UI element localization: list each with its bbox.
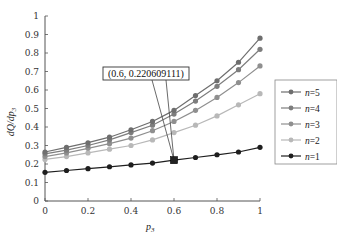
x-tick-label: 0.6	[167, 206, 182, 216]
legend-marker	[289, 90, 294, 95]
data-point	[107, 147, 112, 152]
data-point	[214, 84, 219, 89]
data-point	[193, 155, 198, 160]
y-tick-label: 0.9	[25, 30, 40, 40]
y-tick-label: 0.1	[25, 178, 39, 188]
data-point	[236, 102, 241, 107]
data-point	[193, 123, 198, 128]
data-point	[171, 130, 176, 135]
data-point	[128, 127, 133, 132]
y-tick-label: 0.6	[25, 85, 40, 95]
annotation-label: (0.6, 0.220609111)	[108, 68, 184, 80]
data-point	[85, 150, 90, 155]
series-n1	[42, 145, 262, 175]
data-point	[257, 47, 262, 52]
data-point	[150, 119, 155, 124]
x-tick-label: 0.2	[81, 206, 95, 216]
y-axis-title: dQ/dp3	[5, 107, 18, 136]
data-point	[107, 164, 112, 169]
legend-label: n=4	[305, 104, 320, 114]
x-axis-title: p3	[145, 221, 155, 234]
annotation-square-marker	[171, 157, 178, 164]
series-group	[42, 36, 262, 175]
data-point	[236, 80, 241, 85]
y-tick-label: 1	[33, 11, 39, 21]
y-tick-label: 0.3	[25, 141, 40, 151]
legend-marker	[289, 122, 294, 127]
data-point	[214, 152, 219, 157]
data-point	[42, 149, 47, 154]
y-tick-label: 0.7	[25, 67, 40, 77]
data-point	[171, 108, 176, 113]
data-point	[214, 78, 219, 83]
data-point	[236, 67, 241, 72]
line-chart: 00.20.40.60.8100.10.20.30.40.50.60.70.80…	[0, 0, 337, 242]
legend-marker	[289, 154, 294, 159]
data-point	[236, 149, 241, 154]
series-line	[45, 38, 260, 152]
axes: 00.20.40.60.8100.10.20.30.40.50.60.70.80…	[25, 11, 263, 216]
data-point	[128, 143, 133, 148]
data-point	[193, 99, 198, 104]
legend-marker	[289, 138, 294, 143]
data-point	[257, 91, 262, 96]
y-tick-label: 0.8	[25, 48, 40, 58]
legend-marker	[289, 106, 294, 111]
y-tick-label: 0.4	[25, 122, 40, 132]
data-point	[107, 135, 112, 140]
legend: n=5n=4n=3n=2n=1	[275, 80, 337, 164]
data-point	[128, 136, 133, 141]
x-tick-label: 1	[257, 206, 263, 216]
data-point	[214, 113, 219, 118]
y-tick-label: 0.5	[25, 104, 40, 114]
data-point	[150, 128, 155, 133]
y-tick-label: 0	[33, 196, 39, 206]
x-tick-label: 0	[42, 206, 48, 216]
data-point	[257, 36, 262, 41]
data-point	[85, 166, 90, 171]
data-point	[150, 160, 155, 165]
legend-label: n=2	[305, 136, 320, 146]
y-tick-label: 0.2	[25, 159, 39, 169]
data-point	[85, 140, 90, 145]
x-tick-label: 0.8	[210, 206, 225, 216]
legend-label: n=1	[305, 152, 320, 162]
data-point	[150, 137, 155, 142]
data-point	[171, 119, 176, 124]
series-n5	[42, 36, 262, 155]
data-point	[193, 108, 198, 113]
legend-label: n=5	[305, 88, 320, 98]
legend-label: n=3	[305, 120, 320, 130]
data-point	[214, 95, 219, 100]
data-point	[257, 145, 262, 150]
data-point	[193, 93, 198, 98]
data-point	[64, 168, 69, 173]
data-point	[236, 60, 241, 65]
x-tick-label: 0.4	[124, 206, 139, 216]
data-point	[64, 145, 69, 150]
data-point	[42, 170, 47, 175]
data-point	[257, 63, 262, 68]
data-point	[128, 162, 133, 167]
